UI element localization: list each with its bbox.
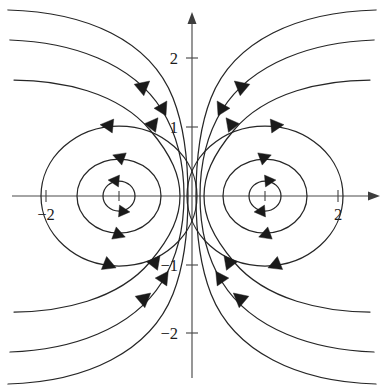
plot-canvas: −2 2 2 1 −1 −2 <box>0 0 388 390</box>
phase-portrait-figure: −2 2 2 1 −1 −2 <box>0 0 388 390</box>
y-tick-label--2: −2 <box>160 324 178 343</box>
y-tick-label--1: −1 <box>160 256 178 275</box>
y-tick-label-2: 2 <box>170 49 178 68</box>
